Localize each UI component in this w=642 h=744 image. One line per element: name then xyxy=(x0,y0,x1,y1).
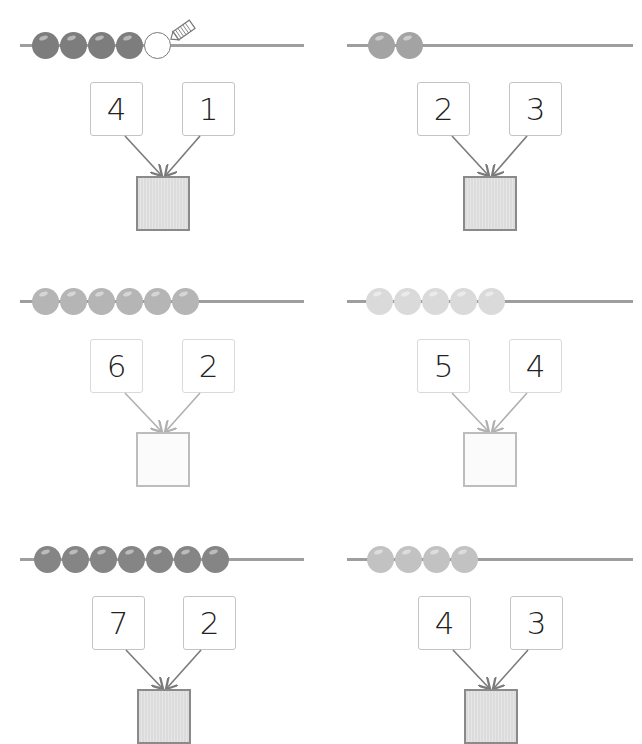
answer-box[interactable] xyxy=(137,689,191,744)
answer-box[interactable] xyxy=(463,432,517,487)
problem-4: 5 4 xyxy=(321,247,642,494)
problem-6: 4 3 xyxy=(321,494,642,741)
problem-1: 4 1 xyxy=(0,0,321,247)
problem-3: 6 2 xyxy=(0,247,321,494)
answer-box[interactable] xyxy=(136,176,190,231)
answer-box[interactable] xyxy=(136,432,190,487)
answer-box[interactable] xyxy=(464,689,518,744)
answer-box[interactable] xyxy=(463,176,517,231)
problem-5: 7 2 xyxy=(0,494,321,741)
problem-2: 2 3 xyxy=(321,0,642,247)
